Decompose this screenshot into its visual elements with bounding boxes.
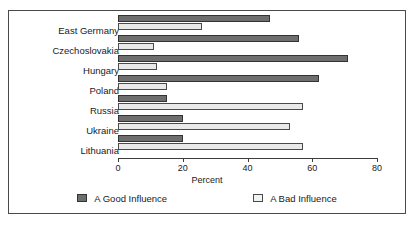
bar [118,123,290,130]
bar-group [118,135,377,155]
x-axis-tick-label: 20 [168,163,198,174]
bar [118,95,167,102]
x-axis-tick [312,158,313,162]
x-axis-tick [118,158,119,162]
category-label: Russia [15,106,119,116]
x-axis-title: Percent [0,175,414,185]
bar-group [118,15,377,35]
legend-item-good-influence: A Good Influence [77,193,167,204]
bar [118,135,183,142]
bar [118,83,167,90]
bar [118,75,319,82]
legend-swatch-good-icon [77,194,87,202]
bar-group [118,35,377,55]
bar [118,15,270,22]
bar [118,63,157,70]
chart-legend: A Good Influence A Bad Influence [8,190,406,206]
bar [118,115,183,122]
x-axis-tick-label: 0 [103,163,133,174]
category-label: Lithuania [15,146,119,156]
category-label: Hungary [15,66,119,76]
legend-swatch-bad-icon [253,194,263,202]
bar-group [118,115,377,135]
category-label: East Germany [15,26,119,36]
category-axis-labels: East Germany Czechoslovakia Hungary Pola… [15,11,119,169]
legend-label: A Good Influence [94,193,167,204]
bar [118,23,202,30]
bar [118,43,154,50]
x-axis-tick-label: 60 [297,163,327,174]
category-label: Ukraine [15,126,119,136]
bar [118,103,303,110]
category-label: Poland [15,86,119,96]
bar-group [118,55,377,75]
bar [118,55,348,62]
bar [118,35,299,42]
legend-item-bad-influence: A Bad Influence [253,193,337,204]
bar-group [118,75,377,95]
x-axis-tick-label: 40 [233,163,263,174]
x-axis-tick [377,158,378,162]
category-label: Czechoslovakia [15,46,119,56]
bar-group [118,95,377,115]
legend-label: A Bad Influence [270,193,337,204]
x-axis-tick [183,158,184,162]
x-axis-tick [248,158,249,162]
x-axis-tick-label: 80 [362,163,392,174]
bar [118,143,303,150]
